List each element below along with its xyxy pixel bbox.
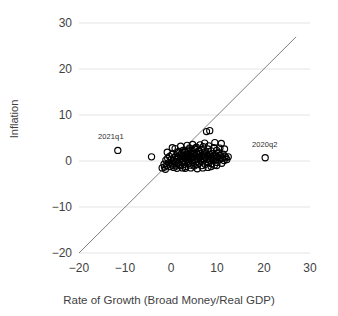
x-axis-title: Rate of Growth (Broad Money/Real GDP) [0, 294, 338, 306]
annotation-2020q2: 2020q2 [252, 140, 278, 149]
data-point [115, 147, 121, 153]
data-point [148, 154, 154, 160]
scatter-chart-figure: Inflation 30 20 10 0 −10 −20 −20 −10 0 1… [0, 0, 338, 316]
plot-area [0, 0, 338, 316]
annotation-2021q1: 2021q1 [98, 132, 124, 141]
data-point [262, 155, 268, 161]
data-points [115, 128, 269, 173]
